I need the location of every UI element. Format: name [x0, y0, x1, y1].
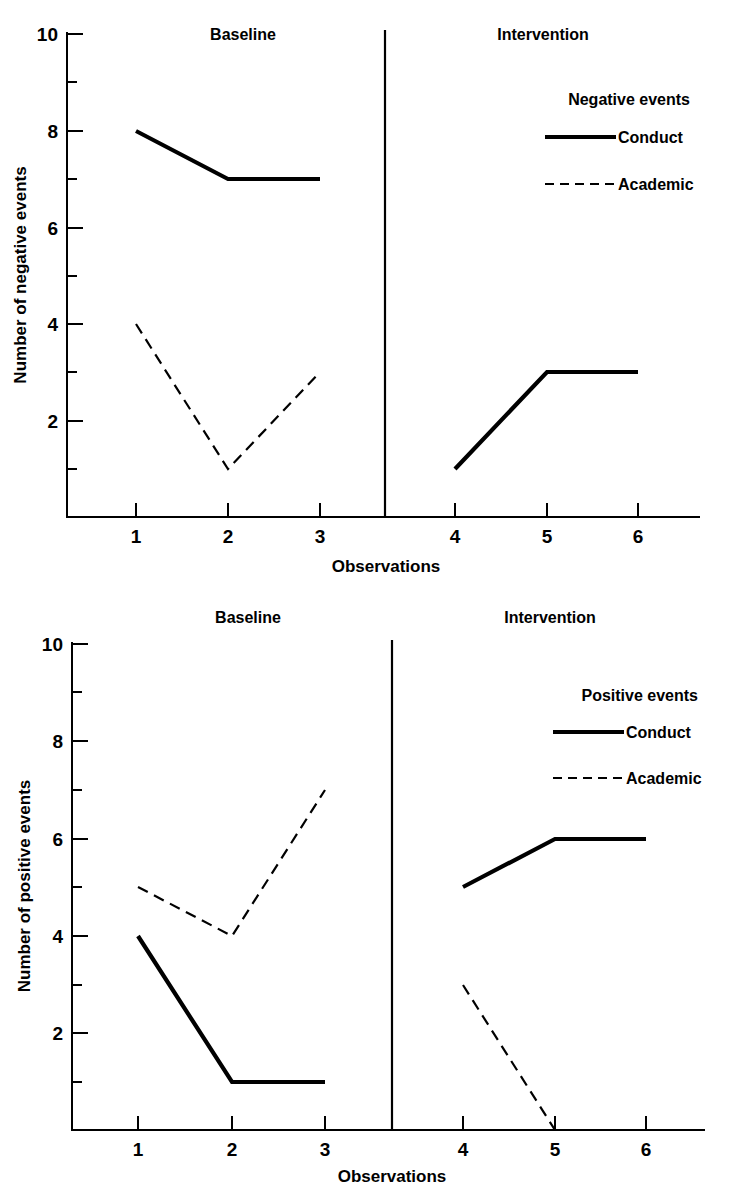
y-axis-major-ticks-negative	[67, 34, 83, 421]
x-axis-ticks-negative	[136, 503, 638, 517]
y-axis-minor-ticks-negative	[67, 82, 77, 469]
x-tick-label-4-positive: 4	[458, 1139, 469, 1160]
y-axis-title-positive: Number of positive events	[15, 780, 34, 993]
legend-title-positive: Positive events	[582, 687, 699, 704]
y-tick-label-8: 8	[47, 121, 58, 142]
series-conduct-baseline-negative	[136, 131, 320, 179]
y-tick-label-6-positive: 6	[52, 829, 63, 850]
x-tick-label-1-positive: 1	[133, 1139, 144, 1160]
y-axis-title-negative: Number of negative events	[11, 166, 30, 383]
phase-label-intervention-positive: Intervention	[504, 609, 596, 626]
x-axis-title-positive: Observations	[338, 1167, 447, 1186]
series-academic-baseline-negative	[136, 324, 320, 469]
series-conduct-intervention-negative	[455, 372, 638, 469]
series-conduct-baseline-positive	[138, 936, 325, 1082]
phase-label-baseline-negative: Baseline	[210, 26, 276, 43]
x-axis-title-negative: Observations	[332, 557, 441, 576]
series-conduct-intervention-positive	[463, 839, 646, 887]
series-academic-intervention-positive	[463, 985, 555, 1130]
x-tick-label-5: 5	[542, 526, 553, 547]
x-tick-label-2: 2	[223, 526, 234, 547]
y-tick-label-2-positive: 2	[52, 1023, 63, 1044]
legend-label-academic-negative: Academic	[618, 176, 694, 193]
negative-events-svg: 10 8 6 4 2 Number of negative events 1 2…	[0, 0, 734, 580]
y-axis-major-ticks-positive	[72, 644, 88, 1033]
x-tick-label-6: 6	[633, 526, 644, 547]
legend-label-conduct-negative: Conduct	[618, 129, 684, 146]
axis-lines-positive	[72, 642, 705, 1130]
y-tick-label-4-positive: 4	[52, 926, 63, 947]
series-academic-baseline-positive	[138, 790, 325, 936]
x-tick-label-3: 3	[315, 526, 326, 547]
legend-label-academic-positive: Academic	[626, 770, 702, 787]
x-tick-label-2-positive: 2	[227, 1139, 238, 1160]
positive-events-svg: 10 8 6 4 2 Number of positive events 1 2…	[0, 580, 734, 1187]
y-tick-label-4: 4	[47, 314, 58, 335]
legend-title-negative: Negative events	[568, 91, 690, 108]
x-tick-label-5-positive: 5	[550, 1139, 561, 1160]
phase-label-baseline-positive: Baseline	[215, 609, 281, 626]
chart-positive-events: 10 8 6 4 2 Number of positive events 1 2…	[0, 580, 734, 1187]
x-tick-label-3-positive: 3	[320, 1139, 331, 1160]
legend-negative: Negative events Conduct Academic	[545, 91, 694, 193]
y-tick-label-2: 2	[47, 411, 58, 432]
chart-negative-events: 10 8 6 4 2 Number of negative events 1 2…	[0, 0, 734, 580]
y-axis-minor-ticks-positive	[72, 692, 82, 1082]
y-tick-label-8-positive: 8	[52, 731, 63, 752]
x-tick-label-4: 4	[450, 526, 461, 547]
phase-label-intervention-negative: Intervention	[497, 26, 589, 43]
y-tick-label-10-positive: 10	[42, 634, 63, 655]
legend-label-conduct-positive: Conduct	[626, 724, 692, 741]
x-tick-label-1: 1	[131, 526, 142, 547]
y-tick-label-6: 6	[47, 218, 58, 239]
y-tick-label-10: 10	[37, 24, 58, 45]
legend-positive: Positive events Conduct Academic	[553, 687, 702, 787]
x-tick-label-6-positive: 6	[641, 1139, 652, 1160]
